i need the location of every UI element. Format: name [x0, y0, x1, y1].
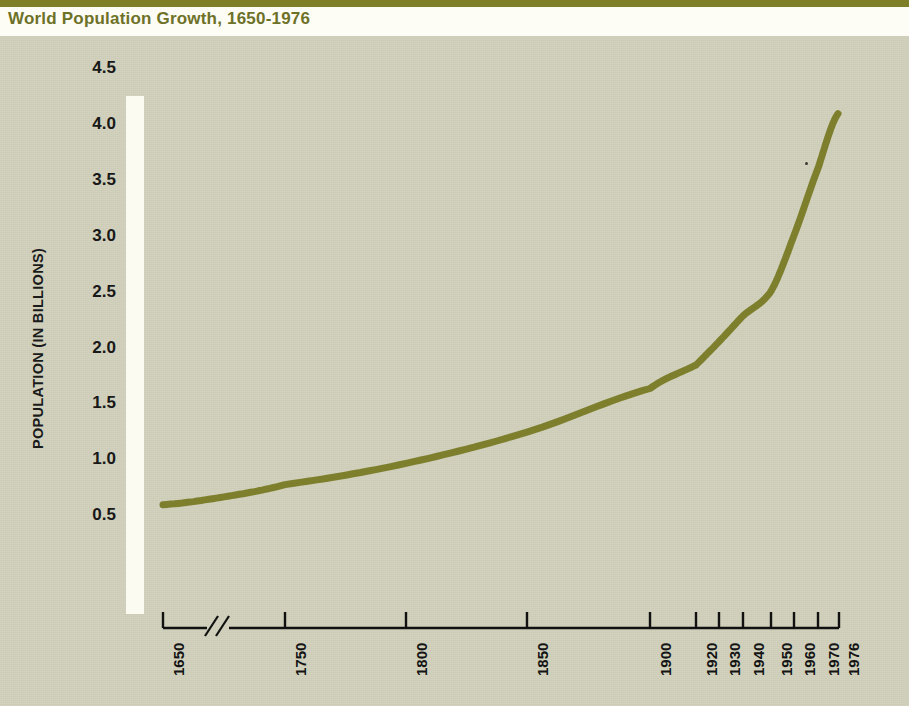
axis-break-icon — [205, 616, 229, 636]
plot-area — [0, 0, 909, 706]
chart-page: World Population Growth, 1650-1976 POPUL… — [0, 0, 909, 706]
x-axis — [163, 612, 839, 636]
population-curve — [163, 114, 838, 505]
